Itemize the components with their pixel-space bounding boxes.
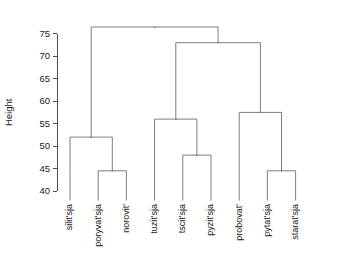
leaf-label: norovit' — [121, 204, 131, 233]
y-axis-tick-label: 50 — [39, 140, 50, 151]
dendrogram-branch — [91, 27, 154, 137]
y-axis-tick-label: 70 — [39, 50, 50, 61]
leaf-labels: silit'sjaporyvat'sjanorovit'tuzit'sjatsc… — [64, 204, 300, 247]
leaf-label: tscit'sja — [177, 204, 187, 233]
leaf-label: probovat' — [234, 204, 244, 241]
dendrogram-branch — [282, 171, 296, 200]
y-axis-tick-label: 40 — [39, 185, 50, 196]
y-axis-tick-label: 65 — [39, 73, 50, 84]
dendrogram-branch — [155, 27, 219, 43]
y-axis-tick-label: 75 — [39, 28, 50, 39]
leaf-label: silit'sja — [64, 204, 74, 230]
y-axis-title: Height — [3, 98, 14, 126]
dendrogram-plot: 4045505560657075 Height silit'sjaporyvat… — [0, 0, 354, 268]
y-axis-tick-label: 55 — [39, 118, 50, 129]
dendrogram-branch — [183, 155, 197, 200]
leaf-label: starat'sja — [290, 204, 300, 240]
y-axis: 4045505560657075 — [39, 28, 57, 196]
dendrogram-branch — [197, 155, 211, 200]
y-axis-title-text: Height — [3, 98, 14, 126]
dendrogram-branch — [176, 43, 218, 119]
dendrogram-branch — [91, 137, 112, 171]
dendrogram-branch — [98, 171, 112, 200]
dendrogram-canvas: 4045505560657075 Height silit'sjaporyvat… — [0, 0, 354, 268]
leaf-label: tuzit'sja — [149, 204, 159, 234]
y-axis-tick-label: 60 — [39, 95, 50, 106]
dendrogram-branch — [176, 119, 197, 155]
dendrogram-branch — [218, 43, 260, 113]
dendrogram-branch — [239, 112, 260, 200]
leaf-label: pytat'sja — [262, 204, 272, 237]
dendrogram-branch — [112, 171, 126, 200]
dendrogram-branch — [155, 119, 176, 200]
dendrogram-branch — [260, 112, 281, 170]
dendrogram-branch — [267, 171, 281, 200]
leaf-label: pyzit'sja — [205, 204, 215, 236]
dendrogram-branches — [70, 27, 296, 200]
y-axis-tick-label: 45 — [39, 163, 50, 174]
dendrogram-branch — [70, 137, 91, 200]
leaf-label: poryvat'sja — [93, 204, 103, 247]
